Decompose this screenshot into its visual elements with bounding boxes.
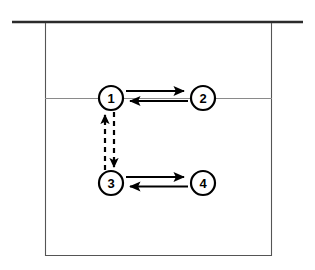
diagram-canvas: 1 2 3 4 — [0, 0, 315, 270]
node-2-label: 2 — [199, 91, 206, 106]
node-4-label: 4 — [199, 176, 207, 191]
node-3-label: 3 — [107, 176, 114, 191]
node-1[interactable]: 1 — [99, 86, 123, 110]
node-4[interactable]: 4 — [191, 171, 215, 195]
node-3[interactable]: 3 — [99, 171, 123, 195]
node-1-label: 1 — [107, 91, 114, 106]
diagram-svg: 1 2 3 4 — [0, 0, 315, 270]
node-2[interactable]: 2 — [191, 86, 215, 110]
